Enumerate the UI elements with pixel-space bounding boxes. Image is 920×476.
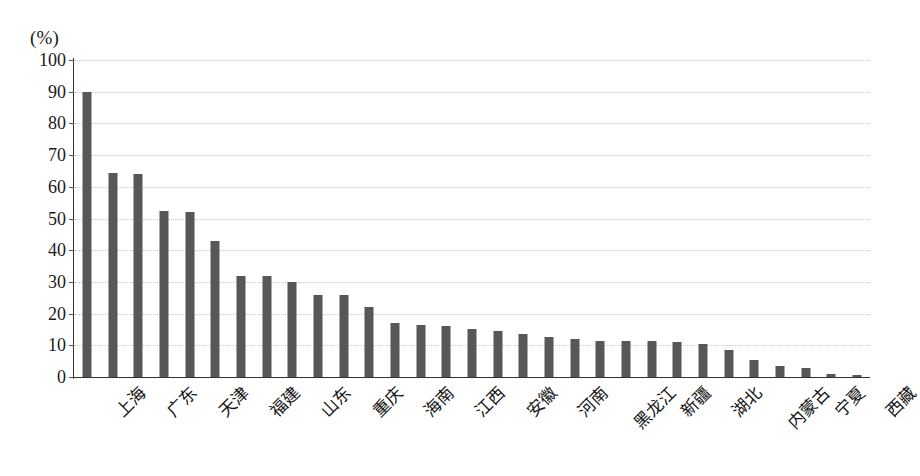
bar-series	[74, 60, 870, 377]
x-axis-tick-label: 安徽	[524, 384, 561, 421]
y-axis-tick-mark	[69, 60, 74, 61]
bar-slot	[742, 60, 768, 377]
bar-slot	[408, 60, 434, 377]
y-axis-tick-mark	[69, 377, 74, 378]
bar-slot	[588, 60, 614, 377]
bar-slot	[690, 60, 716, 377]
bar	[750, 360, 759, 377]
y-axis-tick-label: 90	[22, 83, 66, 101]
x-axis-tick-label: 新疆	[678, 384, 715, 421]
bar-slot	[331, 60, 357, 377]
x-axis-tick-label: 江西	[472, 384, 509, 421]
bar	[159, 211, 168, 377]
x-axis-tick-label: 河南	[575, 384, 612, 421]
bar-slot	[536, 60, 562, 377]
bar-slot	[356, 60, 382, 377]
bar	[724, 350, 733, 377]
bar-slot	[844, 60, 870, 377]
x-axis-tick-label: 山东	[318, 384, 355, 421]
y-axis-tick-label: 70	[22, 146, 66, 164]
bar	[776, 366, 785, 377]
x-axis-tick-label: 重庆	[370, 384, 407, 421]
bar-slot	[254, 60, 280, 377]
y-axis-tick-mark	[69, 345, 74, 346]
y-axis-tick-mark	[69, 92, 74, 93]
bar-slot	[716, 60, 742, 377]
bar	[211, 241, 220, 377]
bar-slot	[665, 60, 691, 377]
bar	[339, 295, 348, 377]
bar	[108, 173, 117, 377]
bar	[801, 368, 810, 378]
bar-slot	[279, 60, 305, 377]
y-axis-tick-label: 40	[22, 241, 66, 259]
bar-slot	[613, 60, 639, 377]
y-axis-unit-label: (%)	[30, 28, 59, 47]
bar	[185, 212, 194, 377]
bar-slot	[177, 60, 203, 377]
bar-slot	[819, 60, 845, 377]
bar	[596, 341, 605, 377]
bar	[622, 341, 631, 377]
bar-slot	[459, 60, 485, 377]
x-axis-tick-label: 宁夏	[832, 384, 869, 421]
y-axis-tick-mark	[69, 187, 74, 188]
x-axis-tick-label: 海南	[421, 384, 458, 421]
bar	[827, 374, 836, 377]
x-axis-tick-label: 上海	[113, 384, 150, 421]
bar	[647, 341, 656, 377]
y-axis-tick-mark	[69, 155, 74, 156]
y-axis-tick-mark	[69, 219, 74, 220]
bar-slot	[74, 60, 100, 377]
x-axis-baseline	[73, 377, 870, 378]
bar	[313, 295, 322, 377]
y-axis-tick-label: 50	[22, 210, 66, 228]
bar-slot	[151, 60, 177, 377]
bar	[82, 92, 91, 377]
y-axis-tick-label: 100	[22, 51, 66, 69]
bar	[288, 282, 297, 377]
bar-slot	[793, 60, 819, 377]
x-axis-tick-label: 内蒙古	[785, 384, 834, 433]
bar	[390, 323, 399, 377]
bar-slot	[433, 60, 459, 377]
y-axis-tick-label: 80	[22, 114, 66, 132]
bar	[853, 375, 862, 377]
bar	[134, 174, 143, 377]
y-axis-tick-mark	[69, 314, 74, 315]
bar-slot	[562, 60, 588, 377]
bar	[262, 276, 271, 377]
bar-slot	[305, 60, 331, 377]
bar	[493, 331, 502, 377]
y-axis-tick-label: 0	[22, 368, 66, 386]
y-axis-tick-label: 10	[22, 336, 66, 354]
bar	[442, 326, 451, 377]
x-axis-tick-labels: 上海广东天津福建山东重庆海南江西安徽河南黑龙江新疆湖北内蒙古宁夏西藏	[74, 380, 870, 476]
bar	[673, 342, 682, 377]
bar	[416, 325, 425, 377]
bar-slot	[511, 60, 537, 377]
y-axis-tick-mark	[69, 123, 74, 124]
x-axis-tick-label: 福建	[267, 384, 304, 421]
x-axis-tick-label: 广东	[164, 384, 201, 421]
x-axis-tick-label: 西藏	[883, 384, 920, 421]
bar	[519, 334, 528, 377]
bar-slot	[228, 60, 254, 377]
y-axis-tick-label: 30	[22, 273, 66, 291]
bar-slot	[202, 60, 228, 377]
x-axis-tick-label: 黑龙江	[631, 384, 680, 433]
bar	[570, 339, 579, 377]
x-axis-tick-label: 天津	[216, 384, 253, 421]
bar-slot	[485, 60, 511, 377]
bar	[236, 276, 245, 377]
bar-slot	[382, 60, 408, 377]
bar	[365, 307, 374, 377]
y-axis-tick-label: 20	[22, 305, 66, 323]
bar	[699, 344, 708, 377]
bar	[545, 337, 554, 377]
plot-area	[74, 60, 870, 377]
bar-slot	[100, 60, 126, 377]
y-axis-tick-label: 60	[22, 178, 66, 196]
y-axis-tick-mark	[69, 250, 74, 251]
